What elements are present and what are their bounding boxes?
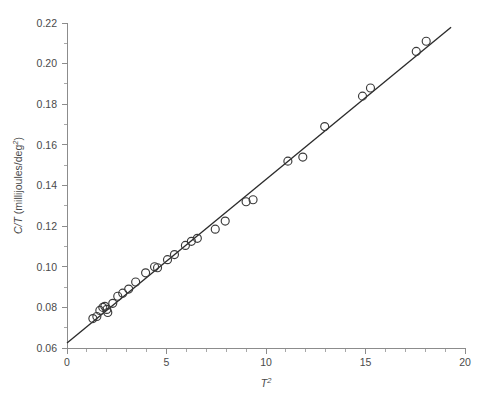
chart-figure: 05101520 0.060.080.100.120.140.160.180.2… (0, 0, 491, 399)
data-point (249, 196, 257, 204)
data-point (412, 47, 420, 55)
data-point (366, 84, 374, 92)
y-axis-tick-label: 0.22 (37, 17, 58, 29)
data-point (359, 92, 367, 100)
y-axis-tick-label: 0.08 (37, 301, 58, 313)
y-axis-title: C/T (millijoules/deg2) (11, 137, 24, 234)
y-axis-tick-label: 0.20 (37, 57, 58, 69)
x-axis-title: T2 (261, 376, 272, 389)
data-point (142, 269, 150, 277)
regression-fit-line (67, 27, 451, 343)
x-axis-tick-label: 15 (360, 356, 372, 368)
data-point (422, 37, 430, 45)
data-point (321, 123, 329, 131)
x-axis-tick-label: 10 (260, 356, 272, 368)
x-axis-tick-labels: 05101520 (64, 356, 471, 368)
y-axis-major-ticks (62, 23, 68, 348)
y-axis-tick-label: 0.06 (37, 342, 58, 354)
x-axis-tick-label: 20 (459, 356, 471, 368)
data-point (299, 153, 307, 161)
y-axis-tick-label: 0.18 (37, 98, 58, 110)
x-axis-tick-label: 5 (164, 356, 170, 368)
y-axis-tick-label: 0.16 (37, 139, 58, 151)
data-point-group (89, 37, 430, 322)
y-axis-tick-label: 0.14 (37, 179, 58, 191)
scatter-plot-svg: 05101520 0.060.080.100.120.140.160.180.2… (0, 0, 491, 399)
data-point (221, 217, 229, 225)
y-axis-tick-label: 0.10 (37, 261, 58, 273)
y-axis-tick-labels: 0.060.080.100.120.140.160.180.200.22 (37, 17, 58, 354)
x-axis-tick-label: 0 (64, 356, 70, 368)
y-axis-tick-label: 0.12 (37, 220, 58, 232)
data-point (211, 225, 219, 233)
data-point (132, 278, 140, 286)
